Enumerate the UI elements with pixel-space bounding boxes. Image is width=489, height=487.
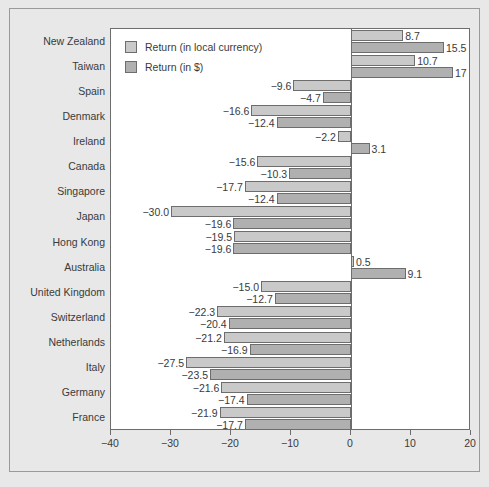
bar-value-label: −23.5 — [111, 370, 210, 381]
x-axis-tick-label: 0 — [347, 437, 353, 449]
y-axis-label: Canada — [12, 160, 105, 172]
x-axis: −40−30−20−1001020 — [110, 430, 470, 456]
legend-label: Return (in local currency) — [145, 41, 262, 53]
bar — [277, 193, 351, 204]
y-axis-label: Japan — [12, 210, 105, 222]
y-axis-label: Germany — [12, 386, 105, 398]
x-axis-tick — [470, 430, 471, 435]
bar-value-label: 17 — [455, 68, 467, 79]
bar-value-label: 10.7 — [417, 56, 437, 67]
bar — [233, 243, 351, 254]
chart-legend: Return (in local currency)Return (in $) — [125, 37, 262, 77]
bar — [234, 231, 351, 242]
bar-value-label: −16.9 — [111, 345, 250, 356]
y-axis-label: Taiwan — [12, 60, 105, 72]
bar — [245, 419, 351, 430]
bar — [261, 281, 351, 292]
plot-area: 8.710.7−9.6−16.6−2.2−15.6−17.7−30.0−19.5… — [110, 28, 470, 430]
y-axis-label: Switzerland — [12, 311, 105, 323]
y-axis-category-labels: New ZealandTaiwanSpainDenmarkIrelandCana… — [12, 28, 105, 430]
y-axis-label: Ireland — [12, 135, 105, 147]
bar-value-label: −22.3 — [111, 307, 217, 318]
bar — [351, 143, 370, 154]
bar-value-label: −17.7 — [111, 182, 245, 193]
y-axis-label: Australia — [12, 261, 105, 273]
bar-value-label: −20.4 — [111, 319, 229, 330]
bar-value-label: 0.5 — [356, 257, 371, 268]
x-axis-tick-label: −40 — [101, 437, 119, 449]
legend-label: Return (in $) — [145, 61, 203, 73]
legend-swatch-icon — [125, 61, 137, 73]
bar — [257, 156, 351, 167]
y-axis-label: France — [12, 411, 105, 423]
bar-value-label: −21.6 — [111, 383, 221, 394]
bar-value-label: 9.1 — [408, 269, 423, 280]
y-axis-label: New Zealand — [12, 35, 105, 47]
bar-value-label: 3.1 — [372, 144, 387, 155]
y-axis-label: Spain — [12, 85, 105, 97]
legend-item: Return (in local currency) — [125, 37, 262, 57]
bar — [245, 181, 351, 192]
bar-value-label: −12.4 — [111, 194, 277, 205]
legend-swatch-icon — [125, 41, 137, 53]
bar — [323, 92, 351, 103]
x-axis-tick-label: −10 — [281, 437, 299, 449]
bar — [351, 268, 406, 279]
bar — [351, 256, 354, 267]
bar — [275, 293, 351, 304]
bar — [186, 357, 351, 368]
bar-value-label: −9.6 — [111, 81, 293, 92]
bar-value-label: −30.0 — [111, 207, 171, 218]
bar-value-label: −21.9 — [111, 408, 220, 419]
x-axis-tick-label: −30 — [161, 437, 179, 449]
bar-value-label: −19.5 — [111, 232, 234, 243]
bar — [233, 218, 351, 229]
zero-axis-line — [351, 29, 352, 429]
bar-value-label: −19.6 — [111, 219, 233, 230]
bar — [217, 306, 351, 317]
y-axis-label: Denmark — [12, 110, 105, 122]
x-axis-tick-label: 20 — [464, 437, 476, 449]
x-axis-tick — [230, 430, 231, 435]
bar-value-label: 8.7 — [405, 31, 420, 42]
bar — [338, 131, 351, 142]
y-axis-label: United Kingdom — [12, 286, 105, 298]
x-axis-tick — [110, 430, 111, 435]
bar-value-label: −27.5 — [111, 358, 186, 369]
x-axis-tick — [410, 430, 411, 435]
y-axis-label: Italy — [12, 361, 105, 373]
bar-value-label: −4.7 — [111, 93, 323, 104]
bar — [171, 206, 351, 217]
bar — [277, 117, 351, 128]
bar — [251, 105, 351, 116]
bar — [293, 80, 351, 91]
bar-value-label: −12.4 — [111, 118, 277, 129]
bar-value-label: −17.7 — [111, 420, 245, 430]
y-axis-label: Singapore — [12, 185, 105, 197]
x-axis-tick — [290, 430, 291, 435]
y-axis-label: Netherlands — [12, 336, 105, 348]
bar — [224, 332, 351, 343]
bar — [351, 67, 453, 78]
bar-value-label: −15.6 — [111, 157, 257, 168]
bar-value-label: −10.3 — [111, 169, 289, 180]
bar-value-label: −17.4 — [111, 395, 247, 406]
bar — [351, 42, 444, 53]
x-axis-tick-label: −20 — [221, 437, 239, 449]
bar-value-label: −15.0 — [111, 282, 261, 293]
bar — [229, 318, 351, 329]
bar — [220, 407, 351, 418]
x-axis-tick — [350, 430, 351, 435]
y-axis-label: Hong Kong — [12, 236, 105, 248]
bar — [210, 369, 351, 380]
bar — [351, 55, 415, 66]
plot-inner: 8.710.7−9.6−16.6−2.2−15.6−17.7−30.0−19.5… — [111, 29, 469, 429]
bar-value-label: −16.6 — [111, 106, 251, 117]
bar-value-label: −19.6 — [111, 244, 233, 255]
bar-value-label: −12.7 — [111, 294, 275, 305]
bar-value-label: −21.2 — [111, 333, 224, 344]
bar-value-label: −2.2 — [111, 132, 338, 143]
bar — [250, 344, 351, 355]
x-axis-tick-label: 10 — [404, 437, 416, 449]
bar — [247, 394, 351, 405]
